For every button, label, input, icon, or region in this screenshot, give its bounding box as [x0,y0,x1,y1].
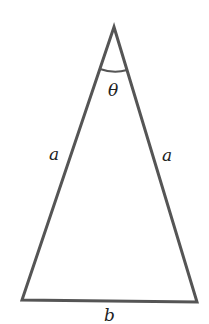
side-label-right: a [162,145,172,165]
angle-label-theta: θ [108,80,118,100]
angle-arc [100,69,127,72]
triangle-diagram: θ a a b [0,0,209,324]
side-label-left: a [49,144,59,164]
base-label: b [104,305,115,324]
